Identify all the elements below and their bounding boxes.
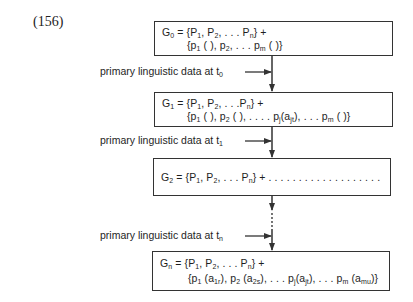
gn-line-2: {p1 (a1r), p2 (a2s), . . . pj(ajt), . . … <box>188 272 378 284</box>
grammar-box-g2: G2 = {P1, P2, . . . Pn} + . . . . . . . … <box>153 158 391 196</box>
grammar-box-g1: G1 = {P1, P2, . . .Pn} + {p1 ( ), p2 ( )… <box>154 92 393 127</box>
input-label-t1: primary linguistic data at t1 <box>100 134 223 146</box>
g0-line-1: G0 = {P1, P2, . . . Pn} + <box>162 26 267 38</box>
vertical-ellipsis <box>271 213 273 227</box>
g1-line-2: {p1 ( ), p2 ( ), . . . . pj(ajt), . . . … <box>187 110 350 122</box>
grammar-box-gn: Gn = {P1, P2, . . . Pn} + {p1 (a1r), p2 … <box>152 251 390 291</box>
input-label-tn: primary linguistic data at tn <box>100 229 223 241</box>
g2-line-1: G2 = {P1, P2, . . . Pn} + . . . . . . . … <box>161 171 380 183</box>
g1-line-1: G1 = {P1, P2, . . .Pn} + <box>162 97 264 109</box>
grammar-box-g0: G0 = {P1, P2, . . . Pn} + {p1 ( ), p2, .… <box>154 21 393 56</box>
input-label-t0: primary linguistic data at t0 <box>100 65 223 77</box>
gn-line-1: Gn = {P1, P2, . . . Pn} + <box>160 257 265 269</box>
g0-line-2: {p1 ( ), p2, . . . pm ( )} <box>187 39 283 51</box>
